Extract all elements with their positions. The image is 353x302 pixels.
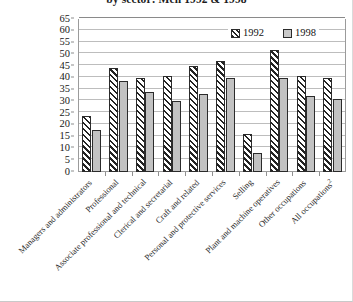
y-axis-tick-label: 40 (60, 73, 71, 84)
legend-swatch-1992-icon (231, 29, 240, 38)
x-axis-label-6: Selling (231, 178, 254, 201)
bar-1998-1 (119, 81, 128, 172)
y-axis-tick-label: 15 (60, 131, 71, 142)
x-axis-tick-mark (132, 172, 133, 176)
legend-swatch-1998-icon (283, 29, 292, 38)
y-axis-tick-label: 50 (60, 49, 71, 60)
y-axis-tick-label: 25 (60, 108, 71, 119)
y-axis-tick-mark (71, 53, 74, 54)
bar-1992-3 (163, 76, 172, 173)
y-axis-tick-label: 0 (65, 167, 70, 178)
y-axis-tick-mark (71, 171, 74, 172)
x-axis-tick-mark (185, 172, 186, 176)
bar-1998-4 (199, 94, 208, 172)
y-axis-tick-mark (71, 65, 74, 66)
legend-entry-1992[interactable]: 1992 (231, 28, 264, 39)
x-axis-tick-mark (266, 172, 267, 176)
bar-1998-8 (306, 96, 315, 173)
y-axis-tick-mark (71, 41, 74, 42)
y-axis: 05101520253035404550556065 (40, 19, 74, 172)
bar-1992-4 (189, 66, 198, 172)
bar-1992-6 (243, 134, 252, 172)
chart-title: by sector: Men 1992 & 1998 (0, 0, 353, 5)
y-axis-tick-mark (71, 135, 74, 136)
bar-1998-2 (145, 92, 154, 172)
x-axis-tick-mark (158, 172, 159, 176)
bar-1992-5 (216, 61, 225, 172)
y-axis-tick-label: 5 (65, 155, 70, 166)
x-axis-tick-mark (105, 172, 106, 176)
bar-1992-2 (136, 78, 145, 172)
y-axis-tick-mark (71, 88, 74, 89)
x-axis-tick-mark (212, 172, 213, 176)
x-axis-tick-mark (319, 172, 320, 176)
chart-figure: by sector: Men 1992 & 1998 0510152025303… (0, 0, 353, 302)
y-axis-tick-mark (71, 18, 74, 19)
bar-1998-6 (253, 153, 262, 172)
bar-1992-8 (297, 76, 306, 173)
gridline (79, 17, 345, 18)
bar-1992-9 (323, 78, 332, 172)
y-axis-tick-label: 45 (60, 61, 71, 72)
bar-1998-9 (333, 99, 342, 172)
bar-1998-3 (172, 101, 181, 172)
y-axis-tick-mark (71, 159, 74, 160)
y-axis-tick-mark (71, 147, 74, 148)
y-axis-tick-mark (71, 29, 74, 30)
y-axis-tick-label: 60 (60, 26, 71, 37)
y-axis-tick-mark (71, 100, 74, 101)
bar-1998-0 (92, 130, 101, 172)
y-axis-tick-mark (71, 76, 74, 77)
bar-1992-7 (270, 50, 279, 172)
legend-label-1998: 1998 (295, 28, 316, 39)
legend-entry-1998[interactable]: 1998 (283, 28, 316, 39)
bars-layer (78, 19, 346, 172)
bar-1998-7 (279, 78, 288, 172)
y-axis-tick-label: 35 (60, 84, 71, 95)
legend-label-1992: 1992 (243, 28, 264, 39)
y-axis-tick-label: 65 (60, 14, 71, 25)
y-axis-tick-mark (71, 123, 74, 124)
bar-1992-1 (109, 68, 118, 172)
x-axis-tick-mark (292, 172, 293, 176)
bar-1998-5 (226, 78, 235, 172)
y-axis-tick-label: 20 (60, 120, 71, 131)
y-axis-tick-label: 10 (60, 143, 71, 154)
x-axis-tick-mark (239, 172, 240, 176)
bar-1992-0 (82, 116, 91, 172)
y-axis-tick-label: 30 (60, 96, 71, 107)
y-axis-tick-label: 55 (60, 37, 71, 48)
chart-legend: 1992 1998 (228, 26, 319, 41)
y-axis-tick-mark (71, 112, 74, 113)
